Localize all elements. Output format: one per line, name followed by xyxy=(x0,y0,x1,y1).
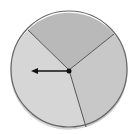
spinner-svg xyxy=(0,0,138,134)
center-pivot xyxy=(67,69,72,74)
spinner-diagram xyxy=(0,0,138,134)
